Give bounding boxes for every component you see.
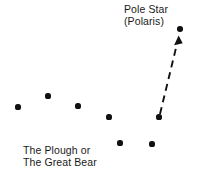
star-dot (15, 104, 20, 109)
pointer-arrow (160, 36, 183, 115)
pole-star-label-line1: Pole Star (124, 3, 168, 15)
star-chart-diagram: Pole Star (Polaris) The Plough or The Gr… (0, 0, 197, 181)
arrow-head-icon (174, 36, 183, 46)
star-dot (117, 140, 122, 145)
star-dot (45, 93, 50, 98)
pole-star-dot (177, 26, 183, 32)
constellation-label-line2: The Great Bear (23, 156, 97, 168)
star-dot (75, 103, 80, 108)
star-dot (149, 141, 154, 146)
constellation-label-line1: The Plough or (23, 144, 97, 156)
constellation-label: The Plough or The Great Bear (23, 144, 97, 168)
star-dot (156, 114, 161, 119)
star-dot (106, 114, 111, 119)
arrow-shaft (160, 43, 177, 114)
pole-star-label-line2: (Polaris) (124, 15, 168, 27)
pole-star-label: Pole Star (Polaris) (124, 3, 168, 27)
